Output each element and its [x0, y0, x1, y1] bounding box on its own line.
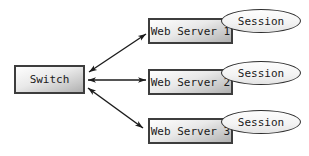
session1-node: Session [221, 9, 301, 33]
session3-label: Session [238, 116, 284, 129]
webserver1-label: Web Server 1 [151, 25, 230, 38]
network-diagram: Switch Web Server 1 Session Web Server 2… [0, 0, 309, 156]
edge-switch-webserver3 [88, 88, 143, 128]
session1-label: Session [238, 15, 284, 28]
switch-label: Switch [30, 73, 70, 86]
session2-node: Session [221, 61, 301, 85]
webserver2-label: Web Server 2 [151, 76, 230, 89]
switch-node: Switch [14, 65, 85, 94]
webserver3-label: Web Server 3 [151, 125, 230, 138]
edge-switch-webserver1 [89, 34, 146, 72]
session2-label: Session [238, 67, 284, 80]
session3-node: Session [221, 110, 301, 134]
